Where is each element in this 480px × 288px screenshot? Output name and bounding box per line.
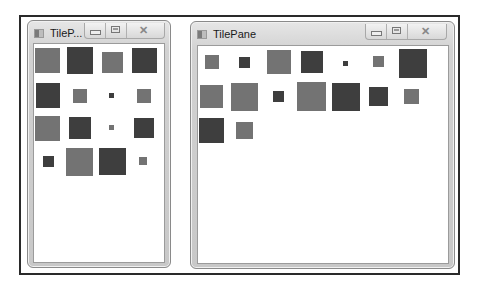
tile-square-medium [200,85,223,108]
minimize-icon [90,30,101,35]
minimize-button[interactable] [85,23,106,38]
tile-square-medium [236,122,253,139]
tile-square-dark [43,156,54,167]
app-window-icon[interactable] [197,30,207,39]
maximize-icon [111,26,120,33]
tile-square-medium [404,89,419,104]
tile-square-medium [139,157,147,165]
tile-square-dark [67,47,93,74]
tile-square-medium [102,52,123,73]
caption-buttons: ✕ [84,23,165,39]
tile-square-medium [35,116,60,141]
tile-square-dark [273,91,284,102]
tile-square-medium [35,48,60,73]
tile-square-medium [73,89,87,103]
tilepane-window-narrow: TileP... ✕ [27,20,171,268]
maximize-icon [392,27,401,34]
minimize-button[interactable] [366,24,387,39]
title-bar[interactable]: TileP... ✕ [28,21,170,43]
tile-square-dark [132,48,157,73]
maximize-button[interactable] [387,24,408,39]
tile-square-dark [109,93,114,98]
tile-square-medium [205,55,219,69]
tile-square-dark [99,148,126,175]
app-window-icon[interactable] [34,29,44,38]
tile-square-dark [332,83,360,111]
window-title: TilePane [213,28,256,40]
tile-square-medium [373,56,384,67]
tile-square-medium [137,89,151,103]
minimize-icon [371,31,382,36]
tile-square-dark [369,87,388,106]
tile-square-medium [66,148,93,176]
tile-square-dark [399,49,427,78]
tile-square-dark [343,61,348,66]
tile-pane-content [197,45,449,264]
close-icon: ✕ [421,25,430,37]
window-title: TileP... [50,27,82,39]
close-button[interactable]: ✕ [127,23,164,38]
close-button[interactable]: ✕ [408,24,446,39]
tile-square-medium [109,125,114,130]
tile-square-medium [267,50,291,74]
title-bar[interactable]: TilePane ✕ [191,22,454,44]
tile-square-dark [239,57,250,68]
tile-square-medium [231,83,258,111]
tilepane-window-wide: TilePane ✕ [190,21,455,269]
tile-square-dark [134,118,154,138]
tile-square-dark [301,51,323,73]
caption-buttons: ✕ [365,24,447,40]
tile-square-dark [36,83,60,108]
close-icon: ✕ [139,24,148,36]
tile-pane-content [33,43,165,263]
tile-square-medium [297,82,326,111]
tile-square-dark [199,118,224,143]
maximize-button[interactable] [106,23,127,38]
tile-square-dark [69,117,91,139]
